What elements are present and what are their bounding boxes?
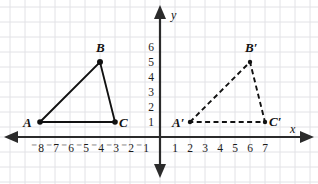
triangle-abc-outline bbox=[40, 62, 115, 122]
y-tick-labels: 1 2 3 4 5 6 bbox=[148, 41, 154, 128]
x-tick-neg-3: 3 bbox=[113, 142, 119, 154]
triangle-abc bbox=[37, 59, 118, 125]
y-tick-5: 5 bbox=[148, 56, 154, 68]
y-axis-label: y bbox=[170, 8, 177, 22]
x-tick-neg-3-sign: ⁻ bbox=[106, 141, 112, 153]
vertex-c-label: C bbox=[119, 115, 128, 130]
coordinate-plane-figure: y x ⁻ 8 ⁻ 7 ⁻ 6 ⁻ 5 ⁻ 4 ⁻ 3 ⁻ 2 ⁻ 1 1 2 … bbox=[0, 0, 318, 184]
x-tick-3: 3 bbox=[202, 142, 208, 154]
vertex-a-prime-label: A′ bbox=[171, 115, 185, 130]
y-tick-2: 2 bbox=[148, 101, 154, 113]
x-tick-neg-7-sign: ⁻ bbox=[46, 141, 52, 153]
x-axis-left-arrow bbox=[4, 131, 18, 143]
x-tick-neg-2-sign: ⁻ bbox=[121, 141, 127, 153]
triangle-a-prime-outline bbox=[190, 62, 265, 122]
y-tick-1: 1 bbox=[148, 116, 154, 128]
triangle-a-prime-b-prime-c-prime bbox=[188, 60, 267, 124]
x-tick-1: 1 bbox=[172, 142, 178, 154]
coordinate-plane-svg: y x ⁻ 8 ⁻ 7 ⁻ 6 ⁻ 5 ⁻ 4 ⁻ 3 ⁻ 2 ⁻ 1 1 2 … bbox=[0, 0, 318, 184]
vertex-c-dot bbox=[112, 119, 118, 125]
x-tick-neg-6-sign: ⁻ bbox=[61, 141, 67, 153]
vertex-c-prime-label: C′ bbox=[269, 114, 282, 129]
x-axis-right-arrow bbox=[300, 131, 314, 143]
x-tick-5: 5 bbox=[232, 142, 238, 154]
y-axis-bottom-arrow bbox=[154, 164, 166, 178]
x-tick-neg-2: 2 bbox=[128, 142, 134, 154]
vertex-a-prime-dot bbox=[188, 120, 192, 124]
vertex-b-prime-dot bbox=[248, 60, 252, 64]
x-tick-neg-5: 5 bbox=[83, 142, 89, 154]
x-tick-7: 7 bbox=[262, 142, 268, 154]
y-tick-6: 6 bbox=[148, 41, 154, 53]
x-tick-neg-8: 8 bbox=[38, 142, 44, 154]
vertex-b-dot bbox=[97, 59, 103, 65]
x-tick-neg-5-sign: ⁻ bbox=[76, 141, 82, 153]
x-tick-neg-4: 4 bbox=[98, 142, 104, 154]
vertex-b-label: B bbox=[95, 40, 105, 55]
y-tick-4: 4 bbox=[148, 71, 154, 83]
x-tick-neg-4-sign: ⁻ bbox=[91, 141, 97, 153]
x-tick-6: 6 bbox=[247, 142, 253, 154]
x-axis-label: x bbox=[289, 122, 296, 136]
vertex-b-prime-label: B′ bbox=[244, 40, 258, 55]
x-tick-neg-6: 6 bbox=[68, 142, 74, 154]
x-tick-neg-7: 7 bbox=[53, 142, 59, 154]
y-tick-3: 3 bbox=[148, 86, 154, 98]
x-tick-neg-1: 1 bbox=[143, 142, 149, 154]
x-tick-4: 4 bbox=[217, 142, 223, 154]
x-tick-2: 2 bbox=[187, 142, 193, 154]
x-tick-labels-negative: ⁻ 8 ⁻ 7 ⁻ 6 ⁻ 5 ⁻ 4 ⁻ 3 ⁻ 2 ⁻ 1 bbox=[31, 141, 149, 154]
vertex-a-label: A bbox=[22, 115, 32, 130]
vertex-c-prime-dot bbox=[263, 120, 267, 124]
x-tick-neg-8-sign: ⁻ bbox=[31, 141, 37, 153]
x-tick-neg-1-sign: ⁻ bbox=[136, 141, 142, 153]
vertex-a-dot bbox=[37, 119, 43, 125]
